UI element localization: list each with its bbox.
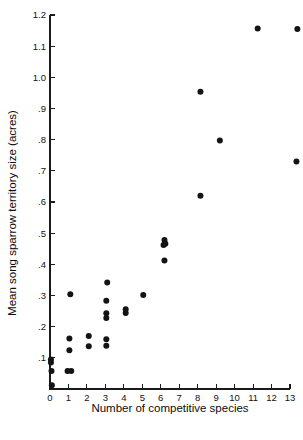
y-tick-label: .9 xyxy=(38,103,46,114)
data-point xyxy=(293,158,299,164)
x-tick-label: 12 xyxy=(266,392,277,403)
data-point xyxy=(103,310,109,316)
y-tick-label: .2 xyxy=(38,321,46,332)
data-point xyxy=(66,347,72,353)
data-point xyxy=(294,26,300,32)
data-point xyxy=(86,343,92,349)
data-point xyxy=(255,25,261,31)
x-tick-label: 0 xyxy=(47,392,52,403)
y-tick-label: .4 xyxy=(38,259,46,270)
y-tick-label: .1 xyxy=(38,352,46,363)
scatter-plot: .1.2.3.4.5.6.7.8.91.01.11.2 012345678910… xyxy=(0,0,303,440)
data-point xyxy=(103,336,109,342)
data-point xyxy=(48,368,54,374)
data-point xyxy=(68,368,74,374)
data-point xyxy=(140,292,146,298)
data-point xyxy=(66,336,72,342)
axis-spine xyxy=(50,15,290,389)
data-point xyxy=(48,360,54,366)
data-point xyxy=(161,258,167,264)
y-tick-label: .3 xyxy=(38,290,46,301)
x-tick-label: 13 xyxy=(285,392,296,403)
y-tick-label: 1.1 xyxy=(33,41,46,52)
x-axis-title: Number of competitive species xyxy=(91,402,248,414)
y-tick-labels: .1.2.3.4.5.6.7.8.91.01.11.2 xyxy=(33,9,46,363)
tick-marks xyxy=(50,15,290,389)
y-tick-label: .7 xyxy=(38,165,46,176)
data-point xyxy=(67,291,73,297)
x-tick-label: 1 xyxy=(66,392,71,403)
data-point xyxy=(217,138,223,144)
x-tick-label: 11 xyxy=(248,392,258,403)
data-point xyxy=(197,89,203,95)
data-points xyxy=(48,25,300,388)
y-tick-label: .8 xyxy=(38,134,46,145)
x-tick-label: 2 xyxy=(84,392,89,403)
data-point xyxy=(103,298,109,304)
y-axis-title: Mean song sparrow territory size (acres) xyxy=(6,110,18,316)
y-tick-label: 1.2 xyxy=(33,9,46,20)
data-point xyxy=(104,279,110,285)
data-point xyxy=(123,306,129,312)
data-point xyxy=(103,343,109,349)
y-tick-label: .5 xyxy=(38,228,46,239)
y-tick-label: .6 xyxy=(38,196,46,207)
y-tick-label: 1.0 xyxy=(33,72,46,83)
data-point xyxy=(161,237,167,243)
axes xyxy=(50,15,290,389)
data-point xyxy=(49,382,55,388)
data-point xyxy=(86,333,92,339)
chart-figure: .1.2.3.4.5.6.7.8.91.01.11.2 012345678910… xyxy=(0,0,303,440)
data-point xyxy=(197,193,203,199)
